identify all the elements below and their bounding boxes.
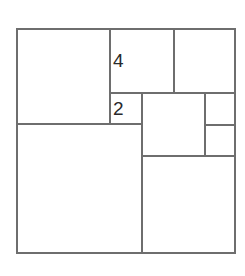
square-bottom-right (141, 155, 236, 254)
square-middle (141, 92, 206, 157)
label-4: 4 (113, 51, 124, 70)
square-top-right (173, 28, 236, 94)
squared-rectangle-diagram: 4 2 (0, 0, 245, 276)
label-2: 2 (113, 99, 124, 118)
square-small-lower (204, 124, 236, 157)
square-top-left (16, 28, 111, 125)
square-bottom-left (16, 123, 143, 254)
square-small-upper (204, 92, 236, 126)
